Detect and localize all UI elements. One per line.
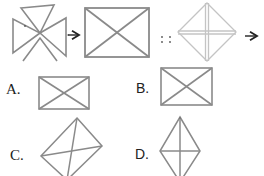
option-c-label[interactable]: C.	[10, 148, 24, 163]
analogy-diagram	[0, 0, 264, 176]
option-b-figure[interactable]	[161, 68, 212, 105]
figure-1-triangle-cross	[13, 5, 69, 61]
option-b-label[interactable]: B.	[136, 81, 149, 95]
option-c-figure[interactable]	[41, 118, 102, 176]
option-d-label[interactable]: D.	[135, 147, 149, 161]
option-d-figure[interactable]	[160, 117, 200, 176]
analogy-separator	[161, 36, 171, 43]
option-a-label[interactable]: A.	[6, 82, 21, 97]
figure-2-rectangle-x	[85, 8, 149, 57]
option-a-figure[interactable]	[39, 77, 89, 109]
figure-3-diamond-crosshair	[178, 3, 236, 61]
